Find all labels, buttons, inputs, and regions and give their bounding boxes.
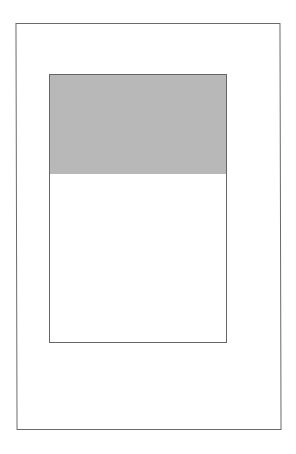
filled-region [50, 75, 226, 174]
inner-frame [49, 74, 227, 343]
